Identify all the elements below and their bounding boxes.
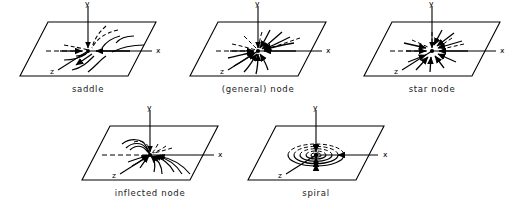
x-axis-label: x — [218, 150, 223, 159]
x-axis-label: x — [156, 46, 161, 55]
panel-caption: star node — [344, 84, 520, 94]
panel-saddle: y x z s — [0, 0, 176, 106]
trajectory-bundle — [228, 30, 296, 74]
x-axis-label: x — [500, 46, 505, 55]
trajectory-curve-ne-1 — [116, 36, 134, 43]
z-axis-label: z — [112, 171, 116, 180]
trajectory-bundle-dashed — [232, 32, 300, 50]
y-axis-label: y — [429, 0, 434, 8]
origin-point — [148, 153, 152, 157]
x-axis-label: x — [383, 150, 388, 159]
z-axis-label: z — [394, 67, 398, 76]
y-axis-label: y — [147, 104, 152, 112]
z-axis-label: z — [50, 67, 54, 76]
z-axis — [402, 51, 432, 70]
y-axis-label: y — [313, 104, 318, 112]
origin-point — [314, 153, 318, 157]
inflected-trajectory-dashed — [134, 141, 172, 153]
x-axis-label: x — [326, 46, 331, 55]
inflected-trajectory-bundle — [122, 140, 190, 174]
y-axis-label: y — [255, 0, 260, 8]
origin-point — [430, 49, 434, 53]
z-axis-label: z — [278, 171, 282, 180]
panel-caption: spiral — [228, 188, 404, 198]
separatrix-dashed-left — [64, 45, 88, 50]
panel-caption: saddle — [0, 84, 176, 94]
z-axis-label: z — [220, 67, 224, 76]
panel-star-node: y x z — [344, 0, 520, 106]
y-axis-label: y — [85, 0, 90, 8]
origin-point — [256, 49, 260, 53]
origin-point — [86, 49, 90, 53]
panel-inflected-node: y x z — [62, 104, 238, 210]
panel-spiral: y x z — [228, 104, 404, 210]
panel-caption: inflected node — [62, 188, 238, 198]
panel-general-node: y x z — [170, 0, 346, 106]
phase-portrait-figure: y x z s — [0, 0, 528, 212]
panel-caption: (general) node — [170, 84, 346, 94]
